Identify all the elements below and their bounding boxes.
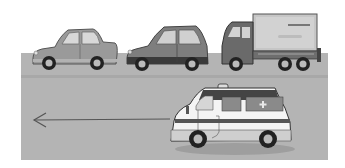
hatchback-car <box>127 26 208 71</box>
traffic-illustration <box>0 0 345 168</box>
sedan-car <box>33 29 117 70</box>
